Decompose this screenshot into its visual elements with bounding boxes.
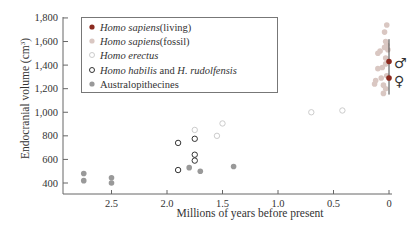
svg-text:2.5: 2.5: [105, 198, 118, 209]
legend: Homo sapiens (living) Homo sapiens (foss…: [81, 17, 278, 93]
svg-text:1,800: 1,800: [34, 12, 58, 23]
legend-item-sapiens-fossil: Homo sapiens (fossil): [88, 35, 277, 49]
legend-marker-icon: [88, 35, 100, 49]
legend-marker-icon: [88, 49, 100, 63]
legend-item-sapiens-living: Homo sapiens (living): [88, 21, 277, 35]
legend-marker-icon: [88, 21, 100, 35]
male-symbol-icon: ♂: [394, 55, 407, 71]
svg-text:1,600: 1,600: [34, 36, 58, 47]
legend-item-erectus: Homo erectus: [88, 49, 277, 63]
legend-item-habilis: Homo habilis and H. rudolfensis: [88, 64, 277, 78]
svg-text:400: 400: [42, 178, 58, 189]
svg-text:1,200: 1,200: [34, 83, 58, 94]
y-axis-label: Endocranial volume (cm3): [19, 23, 32, 173]
svg-text:800: 800: [42, 130, 58, 141]
svg-text:0: 0: [386, 198, 391, 209]
svg-text:600: 600: [42, 154, 58, 165]
svg-text:1,400: 1,400: [34, 60, 58, 71]
legend-marker-icon: [88, 64, 100, 78]
female-symbol-icon: ♀: [394, 73, 404, 89]
x-axis-label: Millions of years before present: [150, 207, 350, 219]
legend-marker-icon: [88, 78, 100, 92]
svg-text:1,000: 1,000: [34, 107, 58, 118]
legend-item-australopithecines: Australopithecines: [88, 78, 277, 92]
